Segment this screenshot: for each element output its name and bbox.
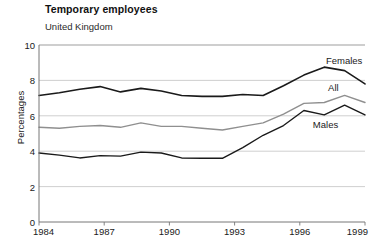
x-tick-label: 1993 xyxy=(224,226,245,237)
series-label-all: All xyxy=(328,82,339,93)
x-axis-tick-marks xyxy=(39,222,365,226)
x-tick-label: 1987 xyxy=(94,226,115,237)
x-tick-label: 1999 xyxy=(347,226,368,237)
y-tick-label: 4 xyxy=(30,146,35,157)
axis-frame xyxy=(39,45,365,222)
x-tick-label: 1990 xyxy=(159,226,180,237)
y-tick-label: 6 xyxy=(30,110,35,121)
y-tick-label: 10 xyxy=(24,40,35,51)
x-tick-label: 1984 xyxy=(33,226,54,237)
y-axis-label: Percentages xyxy=(15,73,26,163)
chart-container: Temporary employees United Kingdom Perce… xyxy=(0,0,377,252)
x-tick-label: 1996 xyxy=(289,226,310,237)
series-line-females xyxy=(39,67,365,96)
gridlines xyxy=(39,45,365,187)
series-label-males: Males xyxy=(313,119,338,130)
page-title: Temporary employees xyxy=(45,3,158,15)
line-chart-svg xyxy=(39,45,365,222)
y-tick-label: 8 xyxy=(30,75,35,86)
series-label-females: Females xyxy=(326,55,362,66)
y-tick-label: 2 xyxy=(30,181,35,192)
series-line-males xyxy=(39,105,365,158)
chart-subtitle: United Kingdom xyxy=(45,21,113,32)
plot-area: 0246810 198419871990199319961999 Females… xyxy=(39,45,365,222)
